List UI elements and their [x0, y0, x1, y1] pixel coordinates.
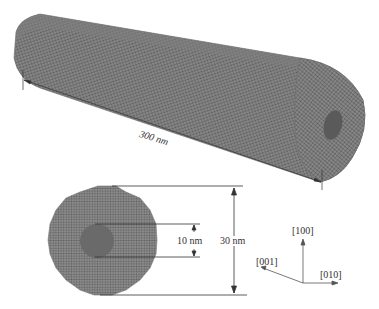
- axis-label-010: [010]: [320, 270, 342, 280]
- nanowire-3d: [14, 14, 365, 182]
- nanowire-figure: [0, 0, 379, 309]
- inner-diameter-label: 10 nm: [177, 236, 202, 246]
- cross-section-core: [80, 224, 114, 258]
- axis-label-100: [100]: [292, 226, 314, 236]
- cross-section: [48, 186, 157, 295]
- axis-label-001: [001]: [256, 257, 278, 267]
- outer-diameter-label: 30 nm: [219, 236, 246, 246]
